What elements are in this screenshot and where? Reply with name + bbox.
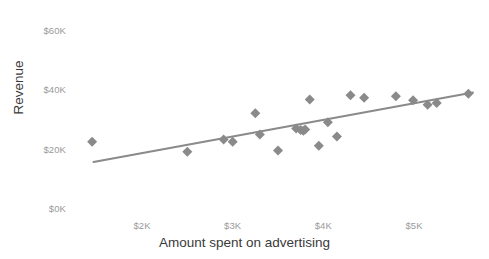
y-axis-title: Revenue <box>11 48 26 128</box>
x-axis-tick-label: $3K <box>224 220 241 231</box>
data-point-marker <box>228 137 238 147</box>
y-axis-tick-label: $0K <box>18 203 66 214</box>
x-axis-tick-label: $4K <box>315 220 332 231</box>
data-point-marker <box>332 132 342 142</box>
data-point-marker <box>391 91 401 101</box>
trend-line-segment <box>93 93 472 162</box>
y-axis-tick-label: $60K <box>18 25 66 36</box>
data-point-marker <box>305 94 315 104</box>
trend-line <box>93 93 472 162</box>
data-point-marker <box>346 90 356 100</box>
data-point-marker <box>219 134 229 144</box>
scatter-chart: $0K$20K$40K$60K $2K$3K$4K$5K Revenue Amo… <box>0 0 489 259</box>
data-point-marker <box>359 93 369 103</box>
data-point-marker <box>273 145 283 155</box>
data-points-group <box>87 89 473 157</box>
data-point-marker <box>463 89 473 99</box>
x-axis-tick-label: $5K <box>405 220 422 231</box>
x-axis-title: Amount spent on advertising <box>0 235 489 250</box>
data-point-marker <box>87 137 97 147</box>
y-axis-tick-label: $20K <box>18 143 66 154</box>
x-axis-tick-label: $2K <box>133 220 150 231</box>
data-point-marker <box>250 108 260 118</box>
data-point-marker <box>182 147 192 157</box>
data-point-marker <box>314 141 324 151</box>
